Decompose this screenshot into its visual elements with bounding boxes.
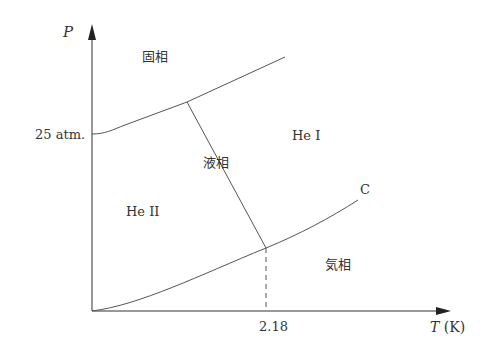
y-axis-label: P bbox=[63, 25, 73, 40]
y-axis-arrow-icon bbox=[88, 24, 96, 40]
region-he1-label: He I bbox=[292, 129, 320, 142]
y-tick-label: 25 atm. bbox=[35, 128, 85, 141]
region-gas-label: 気相 bbox=[325, 258, 351, 271]
melting-curve bbox=[92, 57, 285, 134]
region-liquid-label: 液相 bbox=[203, 156, 229, 169]
x-axis-label: T (K) bbox=[430, 320, 465, 334]
critical-point-label: C bbox=[360, 183, 370, 196]
x-axis-unit: (K) bbox=[444, 319, 465, 335]
lambda-line bbox=[187, 102, 266, 248]
phase-diagram-canvas bbox=[0, 0, 499, 364]
x-tick-label: 2.18 bbox=[259, 320, 288, 333]
region-he2-label: He II bbox=[126, 205, 159, 218]
x-axis-variable: T bbox=[430, 319, 439, 335]
region-solid-label: 固相 bbox=[142, 50, 168, 63]
x-axis-arrow-icon bbox=[436, 307, 451, 315]
